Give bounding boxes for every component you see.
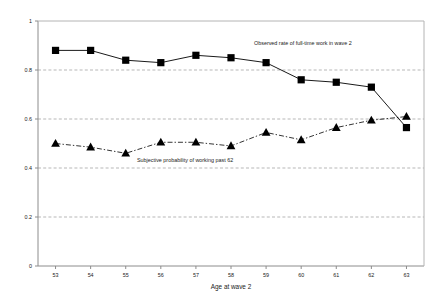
y-tick-label: 0 [29, 263, 32, 269]
chart-background [0, 0, 447, 303]
x-tick-label: 58 [228, 272, 234, 278]
x-tick-label: 57 [193, 272, 199, 278]
annotation-subjective-probability: Subjective probability of working past 6… [137, 157, 233, 163]
data-point-square [368, 84, 375, 91]
y-tick-label: 0.4 [25, 165, 33, 171]
y-tick-label: 0.6 [25, 116, 33, 122]
x-tick-label: 54 [88, 272, 94, 278]
x-tick-label: 55 [123, 272, 129, 278]
data-point-square [227, 54, 234, 61]
data-point-square [52, 47, 59, 54]
y-tick-label: 1 [29, 18, 32, 24]
data-point-square [298, 76, 305, 83]
x-tick-label: 62 [368, 272, 374, 278]
data-point-square [122, 57, 129, 64]
y-tick-label: 0.2 [25, 214, 33, 220]
x-tick-label: 56 [158, 272, 164, 278]
data-point-square [192, 52, 199, 59]
chart-canvas: 00.20.40.60.81 5354555657585960616263 Ob… [0, 0, 447, 303]
x-tick-label: 60 [298, 272, 304, 278]
data-point-square [87, 47, 94, 54]
x-axis-title: Age at wave 2 [211, 283, 252, 291]
y-tick-label: 0.8 [25, 67, 33, 73]
data-point-square [333, 79, 340, 86]
x-tick-label: 61 [333, 272, 339, 278]
annotation-observed-rate: Observed rate of full-time work in wave … [254, 40, 352, 46]
data-point-square [157, 59, 164, 66]
data-point-square [403, 124, 410, 131]
x-tick-label: 53 [53, 272, 59, 278]
x-tick-label: 63 [403, 272, 409, 278]
x-tick-label: 59 [263, 272, 269, 278]
chart-figure: 00.20.40.60.81 5354555657585960616263 Ob… [0, 0, 447, 303]
data-point-square [262, 59, 269, 66]
